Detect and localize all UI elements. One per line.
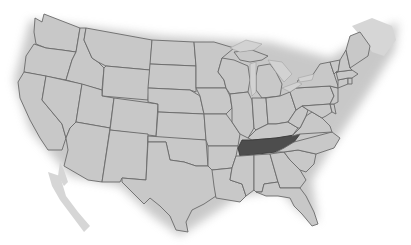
state-wyoming[interactable] (102, 66, 150, 100)
state-colorado[interactable] (110, 98, 158, 136)
state-new-mexico[interactable] (102, 130, 148, 182)
states (18, 14, 370, 232)
map-canvas (0, 0, 411, 245)
state-rhode-island[interactable] (348, 78, 352, 84)
state-kansas[interactable] (156, 112, 206, 140)
state-south-dakota[interactable] (148, 64, 196, 92)
us-map: United States Tennessee (0, 0, 411, 245)
lake-michigan (250, 62, 256, 96)
state-north-dakota[interactable] (150, 40, 196, 66)
